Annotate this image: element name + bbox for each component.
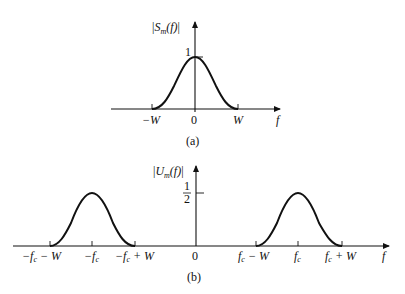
tick-label-neg-fc-plus-w: −fc + W xyxy=(115,249,155,264)
panel-a: |Sm(f)| 1 −W 0 W f (a) xyxy=(111,20,281,148)
spectrum-curve-b-positive xyxy=(256,193,342,246)
svg-text:2: 2 xyxy=(184,192,190,206)
spectrum-curve-b-negative xyxy=(50,193,135,246)
tick-label-fc: fc xyxy=(294,249,301,264)
y-label-a: |Sm(f)| xyxy=(152,20,180,36)
panel-b: |Um(f)| 1 2 −fc − W −fc −fc + W 0 fc − W… xyxy=(13,164,389,284)
tick-label-w: W xyxy=(233,113,244,127)
tick-label-zero-b: 0 xyxy=(192,249,198,263)
tick-label-neg-fc: −fc xyxy=(84,249,99,264)
caption-b: (b) xyxy=(187,270,201,284)
tick-label-neg-fc-minus-w: −fc − W xyxy=(22,249,62,264)
spectrum-figure: |Sm(f)| 1 −W 0 W f (a) |Um(f)| xyxy=(0,0,405,294)
tick-label-minus-w: −W xyxy=(142,113,161,127)
x-label-a: f xyxy=(276,113,281,127)
caption-a: (a) xyxy=(186,134,199,148)
tick-label-fc-plus-w: fc + W xyxy=(325,249,357,264)
tick-label-fc-minus-w: fc − W xyxy=(238,249,270,264)
half-label-b: 1 2 xyxy=(183,179,191,206)
tick-label-zero-a: 0 xyxy=(191,113,197,127)
y-label-b: |Um(f)| xyxy=(153,164,184,180)
svg-text:1: 1 xyxy=(184,179,190,193)
x-label-b: f xyxy=(382,249,387,263)
peak-label-a: 1 xyxy=(185,45,191,59)
